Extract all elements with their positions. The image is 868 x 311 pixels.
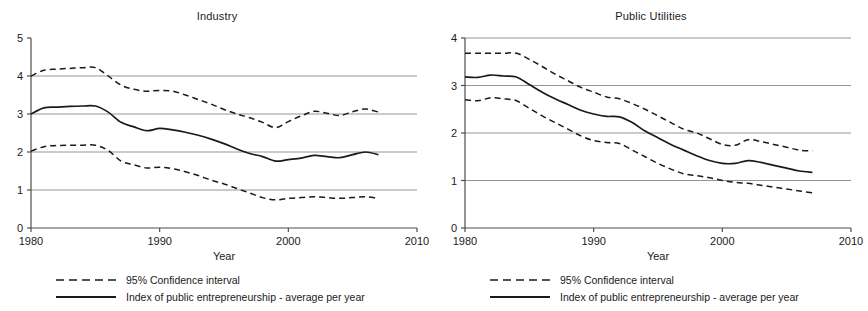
x-tick-label: 1980 bbox=[19, 235, 43, 247]
x-tick-label: 1990 bbox=[581, 235, 605, 247]
chart-legend: 95% Confidence interval Index of public … bbox=[489, 271, 868, 305]
dashed-line-sample bbox=[489, 274, 551, 286]
chart-plot-area: 012341980199020002010Year bbox=[434, 0, 868, 311]
y-tick-label: 0 bbox=[451, 222, 457, 234]
legend-item-mean: Index of public entrepreneurship - avera… bbox=[55, 288, 435, 305]
dashed-line-sample bbox=[55, 274, 117, 286]
x-tick-label: 1990 bbox=[147, 235, 171, 247]
chart-panel-industry: Industry 0123451980199020002010Year 95% … bbox=[0, 0, 434, 311]
x-tick-label: 2010 bbox=[839, 235, 863, 247]
legend-label-mean: Index of public entrepreneurship - avera… bbox=[560, 291, 799, 303]
x-tick-label: 2010 bbox=[405, 235, 429, 247]
y-tick-label: 2 bbox=[17, 146, 23, 158]
solid-line-sample bbox=[55, 291, 117, 303]
x-axis-label: Year bbox=[647, 250, 670, 262]
y-tick-label: 0 bbox=[17, 222, 23, 234]
x-tick-label: 2000 bbox=[276, 235, 300, 247]
data-line bbox=[465, 75, 812, 172]
legend-item-ci: 95% Confidence interval bbox=[55, 271, 435, 288]
chart-legend: 95% Confidence interval Index of public … bbox=[55, 271, 435, 305]
solid-line-sample bbox=[489, 291, 551, 303]
y-tick-label: 3 bbox=[17, 108, 23, 120]
x-axis-label: Year bbox=[213, 250, 236, 262]
y-tick-label: 2 bbox=[451, 127, 457, 139]
data-line bbox=[465, 98, 812, 193]
y-tick-label: 5 bbox=[17, 32, 23, 44]
legend-label-ci: 95% Confidence interval bbox=[560, 274, 674, 286]
legend-label-ci: 95% Confidence interval bbox=[126, 274, 240, 286]
y-tick-label: 1 bbox=[17, 184, 23, 196]
figure-container: Industry 0123451980199020002010Year 95% … bbox=[0, 0, 868, 311]
data-line bbox=[31, 145, 378, 200]
legend-label-mean: Index of public entrepreneurship - avera… bbox=[126, 291, 365, 303]
y-tick-label: 3 bbox=[451, 80, 457, 92]
y-tick-label: 4 bbox=[17, 70, 23, 82]
y-tick-label: 1 bbox=[451, 175, 457, 187]
x-tick-label: 1980 bbox=[453, 235, 477, 247]
chart-panel-public-utilities: Public Utilities 012341980199020002010Ye… bbox=[434, 0, 868, 311]
chart-plot-area: 0123451980199020002010Year bbox=[0, 0, 434, 311]
y-tick-label: 4 bbox=[451, 32, 457, 44]
legend-item-ci: 95% Confidence interval bbox=[489, 271, 868, 288]
legend-item-mean: Index of public entrepreneurship - avera… bbox=[489, 288, 868, 305]
data-line bbox=[465, 53, 812, 151]
x-tick-label: 2000 bbox=[710, 235, 734, 247]
